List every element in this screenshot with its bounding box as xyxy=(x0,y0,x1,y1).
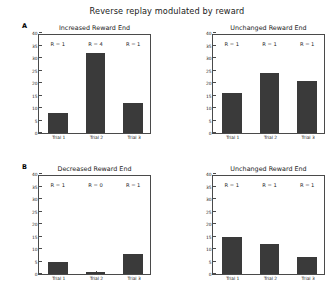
y-axis-tick-label: 0 xyxy=(209,272,212,277)
x-axis-tick-label: Trial 2 xyxy=(90,276,103,281)
y-axis-tick-label: 15 xyxy=(206,234,212,239)
y-axis-tick: 35 xyxy=(39,186,42,187)
x-axis-tick-label: Trial 2 xyxy=(264,276,277,281)
panel-title: Unchanged Reward End xyxy=(212,165,325,173)
y-axis-tick-label: 10 xyxy=(32,106,38,111)
y-axis-tick-label: 40 xyxy=(206,31,212,36)
x-axis-tick-label: Trial 1 xyxy=(226,276,239,281)
x-axis-tick-label: Trial 3 xyxy=(128,276,141,281)
y-axis-tick-label: 35 xyxy=(206,184,212,189)
y-axis-tick-label: 30 xyxy=(32,56,38,61)
bar xyxy=(86,272,106,275)
bar xyxy=(260,244,280,274)
y-axis-tick: 15 xyxy=(213,236,216,237)
plot-area: 0510152025303540Trial 1R = 1Trial 2R = 0… xyxy=(38,175,151,275)
x-axis-tick-label: Trial 2 xyxy=(264,135,277,140)
y-axis-tick: 10 xyxy=(39,107,42,108)
y-axis-tick: 20 xyxy=(39,223,42,224)
y-axis-tick-label: 20 xyxy=(32,222,38,227)
y-axis-tick-label: 0 xyxy=(35,272,38,277)
y-axis-tick-label: 30 xyxy=(206,56,212,61)
x-axis-tick-label: Trial 2 xyxy=(90,135,103,140)
x-axis-tick-label: Trial 1 xyxy=(52,135,65,140)
bar xyxy=(123,254,143,274)
y-axis-tick-label: 20 xyxy=(32,81,38,86)
y-axis-tick-label: 10 xyxy=(32,247,38,252)
y-axis-tick-label: 20 xyxy=(206,222,212,227)
y-axis-tick: 30 xyxy=(39,198,42,199)
bar xyxy=(48,113,68,133)
y-axis-tick-label: 35 xyxy=(32,43,38,48)
panel-letter-a: A xyxy=(22,22,27,30)
y-axis-tick: 0 xyxy=(39,132,42,133)
reward-annotation: R = 1 xyxy=(126,41,141,47)
y-axis-tick: 10 xyxy=(213,107,216,108)
y-axis-tick-label: 40 xyxy=(32,172,38,177)
y-axis-tick: 40 xyxy=(39,173,42,174)
y-axis-tick: 5 xyxy=(213,261,216,262)
y-axis-tick-label: 25 xyxy=(206,68,212,73)
x-axis-tick-label: Trial 3 xyxy=(128,135,141,140)
reward-annotation: R = 1 xyxy=(126,182,141,188)
y-axis-tick-label: 20 xyxy=(206,81,212,86)
panel-b-right: Unchanged Reward End No. of reverse repl… xyxy=(212,175,325,275)
panel-a-right: Unchanged Reward End No. of reverse repl… xyxy=(212,34,325,134)
x-axis-tick-label: Trial 1 xyxy=(52,276,65,281)
panel-title: Decreased Reward End xyxy=(38,165,151,173)
y-axis-tick: 25 xyxy=(39,70,42,71)
y-axis-tick: 0 xyxy=(213,132,216,133)
y-axis-tick: 40 xyxy=(213,32,216,33)
y-axis-tick-label: 25 xyxy=(32,209,38,214)
y-axis-tick-label: 5 xyxy=(35,118,38,123)
y-axis-tick-label: 25 xyxy=(32,68,38,73)
bar xyxy=(86,53,106,133)
y-axis-tick: 25 xyxy=(39,211,42,212)
y-axis-tick: 20 xyxy=(213,82,216,83)
x-axis-tick-label: Trial 1 xyxy=(226,135,239,140)
y-axis-tick: 5 xyxy=(39,120,42,121)
y-axis-tick: 5 xyxy=(213,120,216,121)
y-axis-tick-label: 10 xyxy=(206,247,212,252)
y-axis-tick: 20 xyxy=(213,223,216,224)
bar xyxy=(123,103,143,133)
y-axis-tick-label: 35 xyxy=(32,184,38,189)
y-axis-tick: 35 xyxy=(39,45,42,46)
y-axis-tick: 0 xyxy=(213,273,216,274)
figure-suptitle: Reverse replay modulated by reward xyxy=(0,6,334,16)
y-axis-tick-label: 10 xyxy=(206,106,212,111)
reward-annotation: R = 4 xyxy=(88,41,103,47)
y-axis-tick: 5 xyxy=(39,261,42,262)
y-axis-tick-label: 40 xyxy=(32,31,38,36)
y-axis-tick: 10 xyxy=(213,248,216,249)
y-axis-tick: 40 xyxy=(213,173,216,174)
y-axis-tick: 25 xyxy=(213,70,216,71)
panel-letter-b: B xyxy=(22,163,27,171)
reward-annotation: R = 1 xyxy=(51,182,66,188)
y-axis-tick-label: 15 xyxy=(32,93,38,98)
x-axis-tick-label: Trial 3 xyxy=(302,276,315,281)
y-axis-tick: 20 xyxy=(39,82,42,83)
plot-area: 0510152025303540Trial 1R = 1Trial 2R = 1… xyxy=(212,34,325,134)
plot-area: 0510152025303540Trial 1R = 1Trial 2R = 4… xyxy=(38,34,151,134)
y-axis-tick: 30 xyxy=(213,198,216,199)
y-axis-tick-label: 15 xyxy=(32,234,38,239)
bar xyxy=(297,81,317,134)
panel-title: Increased Reward End xyxy=(38,24,151,32)
y-axis-tick: 15 xyxy=(39,236,42,237)
y-axis-tick: 15 xyxy=(213,95,216,96)
y-axis-tick: 35 xyxy=(213,45,216,46)
plot-area: 0510152025303540Trial 1R = 1Trial 2R = 1… xyxy=(212,175,325,275)
panel-a-left: A Increased Reward End No. of reverse re… xyxy=(38,34,151,134)
y-axis-tick: 30 xyxy=(213,57,216,58)
y-axis-tick-label: 0 xyxy=(209,131,212,136)
y-axis-tick-label: 5 xyxy=(35,259,38,264)
reward-annotation: R = 0 xyxy=(88,182,103,188)
y-axis-tick: 0 xyxy=(39,273,42,274)
reward-annotation: R = 1 xyxy=(262,41,277,47)
y-axis-tick: 35 xyxy=(213,186,216,187)
bar xyxy=(48,262,68,275)
figure-canvas: Reverse replay modulated by reward A Inc… xyxy=(0,0,334,288)
panel-title: Unchanged Reward End xyxy=(212,24,325,32)
panel-b-left: B Decreased Reward End No. of reverse re… xyxy=(38,175,151,275)
y-axis-tick: 10 xyxy=(39,248,42,249)
